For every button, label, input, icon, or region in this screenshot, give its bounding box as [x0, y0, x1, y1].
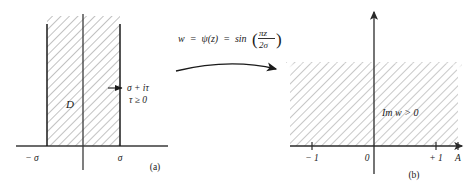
boundary-point-label: σ + iτ [127, 83, 149, 93]
panel-a-caption: (a) [150, 162, 161, 173]
mapping-arrow-icon [176, 64, 276, 71]
panel-b: − 1 0 + 1 A Im w > 0 (b) [286, 12, 462, 181]
tick-label-sigma: σ [118, 153, 123, 163]
domain-d-label: D [65, 98, 74, 110]
paren-open: ( [252, 30, 258, 49]
fraction-denominator: 2σ [259, 40, 269, 50]
tick-label-zero: 0 [365, 153, 370, 163]
domain-d-hatched-region [40, 8, 130, 154]
mapping-annotation: w = ψ(z) = sin ( πz 2σ ) [176, 28, 282, 71]
mapping-expression: w = ψ(z) = sin [178, 33, 247, 45]
panel-a: D − σ σ σ + iτ τ ≥ 0 (a) [16, 8, 168, 173]
region-label-im-w: Im w > 0 [381, 107, 418, 118]
paren-close: ) [276, 30, 282, 49]
tick-label-a: A [454, 153, 461, 163]
boundary-point-condition: τ ≥ 0 [129, 95, 147, 105]
panel-b-caption: (b) [408, 170, 419, 181]
tick-label-minus-one: − 1 [305, 153, 319, 163]
conformal-mapping-figure: D − σ σ σ + iτ τ ≥ 0 (a) w = ψ(z) = sin … [0, 0, 467, 187]
tick-label-minus-sigma: − σ [25, 153, 39, 163]
figure-canvas: D − σ σ σ + iτ τ ≥ 0 (a) w = ψ(z) = sin … [0, 0, 467, 187]
fraction-numerator: πz [259, 28, 268, 38]
tick-label-plus-one: + 1 [429, 153, 443, 163]
